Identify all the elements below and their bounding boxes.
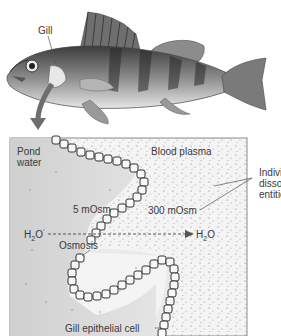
dissolved-entities-label: Individual dissolved entities: [259, 167, 281, 200]
osmosis-label: Osmosis: [59, 240, 98, 251]
plasma-osmolarity: 300 mOsm: [148, 205, 197, 216]
pond-water-label: Pond water: [17, 146, 41, 168]
water-left-label: H2O: [24, 229, 43, 244]
blood-plasma-label: Blood plasma: [151, 146, 212, 157]
pond-osmolarity: 5 mOsm: [73, 204, 111, 215]
gill-label: Gill: [38, 25, 52, 36]
fish-illustration: [0, 0, 281, 336]
gill-epithelial-cell-label: Gill epithelial cell: [65, 323, 139, 334]
water-right-label: H2O: [196, 229, 215, 244]
